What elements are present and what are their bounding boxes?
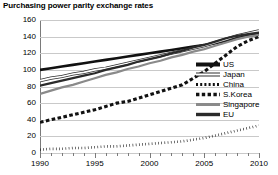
legend-label: Singapore	[223, 100, 259, 109]
legend-swatch-icon	[196, 90, 220, 99]
legend-label: Japan	[223, 70, 245, 79]
chart-title: Purchasing power parity exchange rates	[3, 1, 153, 10]
legend-item-us[interactable]: US	[196, 59, 278, 69]
x-tick-minor	[215, 153, 216, 156]
x-tick-label: 2010	[239, 160, 278, 168]
x-tick-label: 1995	[75, 160, 115, 168]
legend-swatch-icon	[196, 100, 220, 109]
x-tick-minor	[182, 153, 183, 156]
y-tick-label: 140	[0, 33, 36, 41]
y-tick-label: 20	[0, 132, 36, 140]
legend-label: US	[223, 60, 234, 69]
x-tick-minor	[62, 153, 63, 156]
legend-item-japan[interactable]: Japan	[196, 69, 278, 79]
x-tick-major	[259, 153, 260, 158]
x-tick-minor	[73, 153, 74, 156]
chart-figure: Purchasing power parity exchange rates 0…	[0, 0, 278, 175]
x-tick-minor	[128, 153, 129, 156]
legend-swatch-icon	[196, 110, 220, 119]
legend-label: EU	[223, 110, 234, 119]
legend-swatch-icon	[196, 60, 220, 69]
y-tick-label: 120	[0, 49, 36, 57]
x-tick-minor	[106, 153, 107, 156]
x-tick-minor	[117, 153, 118, 156]
y-tick-label: 60	[0, 99, 36, 107]
x-tick-major	[204, 153, 205, 158]
legend-item-eu[interactable]: EU	[196, 109, 278, 119]
x-tick-minor	[51, 153, 52, 156]
x-tick-label: 2000	[130, 160, 170, 168]
legend-swatch-icon	[196, 80, 220, 89]
y-tick-label: 80	[0, 83, 36, 91]
legend-item-skorea[interactable]: S.Korea	[196, 89, 278, 99]
legend-label: China	[223, 80, 244, 89]
y-tick-label: 40	[0, 116, 36, 124]
x-tick-label: 2005	[184, 160, 224, 168]
chart-legend: USJapanChinaS.KoreaSingaporeEU	[196, 59, 278, 119]
x-tick-minor	[139, 153, 140, 156]
legend-swatch-icon	[196, 70, 220, 79]
x-tick-major	[40, 153, 41, 158]
y-tick-label: 160	[0, 16, 36, 24]
x-tick-minor	[160, 153, 161, 156]
x-tick-minor	[171, 153, 172, 156]
series-line-china	[40, 126, 259, 150]
legend-item-china[interactable]: China	[196, 79, 278, 89]
x-tick-major	[150, 153, 151, 158]
x-tick-minor	[84, 153, 85, 156]
x-tick-major	[95, 153, 96, 158]
x-tick-minor	[226, 153, 227, 156]
legend-label: S.Korea	[223, 90, 252, 99]
legend-item-singapore[interactable]: Singapore	[196, 99, 278, 109]
x-tick-minor	[193, 153, 194, 156]
x-tick-minor	[237, 153, 238, 156]
y-tick-label: 100	[0, 66, 36, 74]
x-tick-label: 1990	[20, 160, 60, 168]
y-tick-label: 0	[0, 149, 36, 157]
x-tick-minor	[248, 153, 249, 156]
